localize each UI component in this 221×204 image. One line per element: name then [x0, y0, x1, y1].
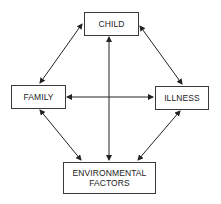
node-child: CHILD: [84, 12, 139, 36]
arrow-child-family: [40, 24, 82, 83]
node-family: FAMILY: [11, 85, 66, 109]
node-illness: ILLNESS: [155, 86, 209, 110]
node-environmental-label-line1: ENVIRONMENTAL: [73, 168, 147, 178]
node-environmental-factors: ENVIRONMENTAL FACTORS: [63, 162, 156, 194]
arrow-family-environmental: [40, 110, 81, 160]
node-illness-label: ILLNESS: [164, 93, 200, 103]
node-family-label: FAMILY: [23, 92, 53, 102]
node-environmental-label-line2: FACTORS: [89, 178, 130, 188]
arrow-illness-environmental: [138, 111, 180, 160]
arrow-child-illness: [140, 26, 182, 84]
node-child-label: CHILD: [98, 19, 124, 29]
